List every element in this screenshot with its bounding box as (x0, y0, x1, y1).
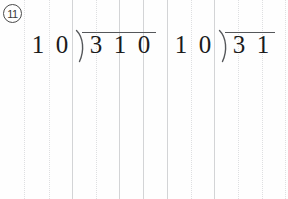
dividend-digit: 1 (108, 31, 132, 59)
grid-line (143, 0, 144, 199)
grid-line (285, 0, 286, 199)
grid-line (24, 0, 25, 199)
grid-line (96, 0, 97, 199)
grid-line (49, 0, 50, 199)
grid-line (191, 0, 192, 199)
dividend-digit: 1 (251, 31, 275, 59)
grid-line (119, 0, 120, 199)
grid-line (72, 0, 73, 199)
grid-guide-lines (0, 0, 288, 199)
grid-line (167, 0, 168, 199)
dividend-digit: 0 (132, 31, 156, 59)
divisor-digit: 1 (26, 31, 50, 59)
grid-line (262, 0, 263, 199)
divisor-digit: 1 (169, 31, 193, 59)
grid-line (238, 0, 239, 199)
dividend-digit: 3 (84, 31, 108, 59)
divisor-digit: 0 (193, 31, 217, 59)
divisor-digit: 0 (50, 31, 74, 59)
problem-number-badge: 11 (3, 4, 22, 23)
grid-line (214, 0, 215, 199)
dividend-digit: 3 (227, 31, 251, 59)
worksheet-page: 11 103101031 (0, 0, 288, 199)
